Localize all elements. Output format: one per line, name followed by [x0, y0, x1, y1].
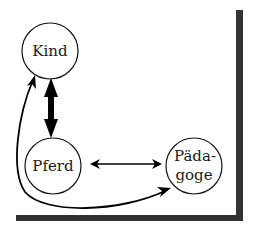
node-kind-label: Kind	[32, 42, 68, 60]
node-pferd-label: Pferd	[32, 157, 74, 175]
node-pferd: Pferd	[25, 138, 81, 194]
edge-kind-pferd-thick-arrow	[44, 78, 58, 138]
triad-diagram: Kind Pferd Päda- goge	[0, 0, 253, 228]
node-paedagoge-label-line1: Päda-	[174, 147, 216, 165]
node-paedagoge-label-line2: goge	[175, 166, 212, 184]
node-paedagoge: Päda- goge	[166, 138, 222, 194]
frame-bottom-bar	[16, 215, 243, 221]
frame-right-bar	[236, 10, 243, 221]
node-kind: Kind	[22, 23, 78, 79]
edge-pferd-paedagoge-arrow	[90, 159, 162, 169]
